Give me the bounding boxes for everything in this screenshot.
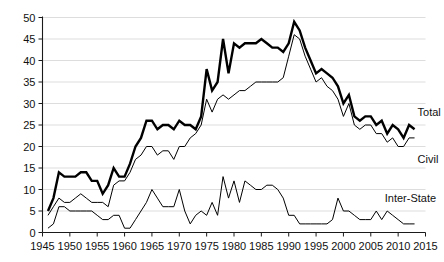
y-tick-label-50: 50 xyxy=(23,12,35,24)
x-tick-label-1990: 1990 xyxy=(276,240,300,252)
line-chart: 05101520253035404550 1945195019551960196… xyxy=(0,0,444,262)
x-tick-label-1945: 1945 xyxy=(30,240,54,252)
y-tick-label-0: 0 xyxy=(29,227,35,239)
x-tick-label-2000: 2000 xyxy=(331,240,355,252)
chart-page: 05101520253035404550 1945195019551960196… xyxy=(0,0,444,262)
series-label-total: Total xyxy=(418,106,441,118)
x-tick-label-2010: 2010 xyxy=(386,240,410,252)
y-tick-label-20: 20 xyxy=(23,141,35,153)
y-tick-label-35: 35 xyxy=(23,76,35,88)
x-tick-label-1955: 1955 xyxy=(85,240,109,252)
y-tick-label-30: 30 xyxy=(23,98,35,110)
x-tick-label-1970: 1970 xyxy=(167,240,191,252)
x-tick-label-1965: 1965 xyxy=(140,240,164,252)
x-tick-label-1975: 1975 xyxy=(194,240,218,252)
series-label-civil: Civil xyxy=(418,153,439,165)
x-tick-label-1995: 1995 xyxy=(304,240,328,252)
y-tick-label-5: 5 xyxy=(29,205,35,217)
y-tick-label-15: 15 xyxy=(23,162,35,174)
x-tick-label-1980: 1980 xyxy=(222,240,246,252)
x-tick-label-2005: 2005 xyxy=(359,240,383,252)
y-tick-label-45: 45 xyxy=(23,33,35,45)
y-tick-label-10: 10 xyxy=(23,184,35,196)
x-tick-label-2015: 2015 xyxy=(413,240,437,252)
x-tick-label-1960: 1960 xyxy=(112,240,136,252)
series-label-inter-state: Inter-State xyxy=(385,192,436,204)
x-tick-label-1950: 1950 xyxy=(58,240,82,252)
y-tick-label-25: 25 xyxy=(23,119,35,131)
x-tick-label-1985: 1985 xyxy=(249,240,273,252)
y-tick-label-40: 40 xyxy=(23,55,35,67)
